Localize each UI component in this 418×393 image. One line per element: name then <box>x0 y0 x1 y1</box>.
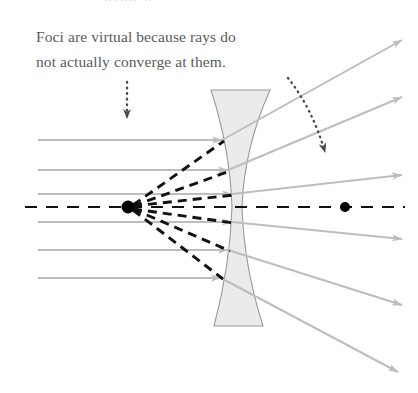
outgoing-ray-4 <box>232 222 402 239</box>
right-virtual-focus <box>340 202 350 212</box>
right-focus-pointer <box>288 78 325 152</box>
outgoing-ray-3 <box>232 175 402 194</box>
virtual-ray-1 <box>133 141 224 205</box>
virtual-ray-extensions <box>133 141 234 279</box>
left-virtual-focus <box>122 201 135 214</box>
lens-ray-diagram: ging g Foci are virtual because rays do … <box>0 0 418 393</box>
diagram-canvas <box>0 0 418 393</box>
